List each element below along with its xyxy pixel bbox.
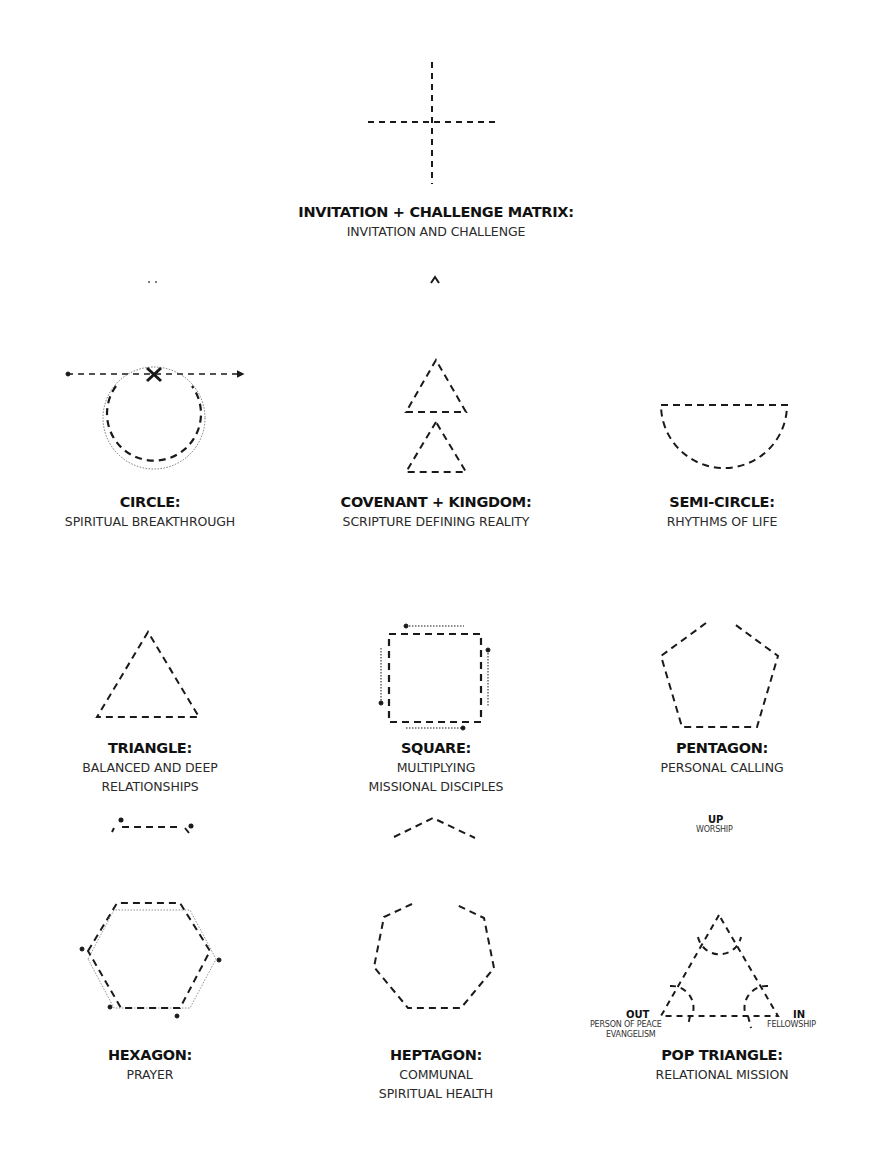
dashed-cross-icon	[368, 62, 496, 184]
dashed-square-icon	[379, 624, 490, 730]
stacked-triangles-icon	[406, 360, 466, 472]
shape-subtitle: BALANCED AND DEEP	[82, 758, 217, 777]
shape-subtitle: RHYTHMS OF LIFE	[667, 512, 778, 531]
shape-title: HEPTAGON:	[379, 1045, 493, 1065]
shape-subtitle: RELATIONSHIPS	[82, 777, 217, 796]
shape-subtitle: MISSIONAL DISCIPLES	[369, 777, 504, 796]
stray-mark-icon	[112, 818, 475, 838]
label-heptagon: HEPTAGON: COMMUNAL SPIRITUAL HEALTH	[379, 1045, 493, 1103]
shape-title: PENTAGON:	[660, 738, 783, 758]
label-pop-triangle: POP TRIANGLE: RELATIONAL MISSION	[656, 1045, 789, 1084]
shape-title: INVITATION + CHALLENGE MATRIX:	[298, 202, 573, 222]
dashed-triangle-icon	[97, 632, 199, 717]
stray-mark-icon	[148, 277, 439, 283]
shape-title: POP TRIANGLE:	[656, 1045, 789, 1065]
shape-subtitle: RELATIONAL MISSION	[656, 1065, 789, 1084]
pop-triangle-icon	[661, 915, 778, 1028]
pop-up-title: UP	[708, 814, 723, 825]
label-semicircle: SEMI-CIRCLE: RHYTHMS OF LIFE	[667, 492, 778, 531]
shape-subtitle: SCRIPTURE DEFINING REALITY	[341, 512, 532, 531]
dashed-circle-icon	[66, 367, 243, 469]
label-hexagon: HEXAGON: PRAYER	[108, 1045, 192, 1084]
shape-subtitle: SPIRITUAL BREAKTHROUGH	[65, 512, 235, 531]
label-covenant: COVENANT + KINGDOM: SCRIPTURE DEFINING R…	[341, 492, 532, 531]
pop-out-sub-2: EVANGELISM	[606, 1030, 656, 1039]
label-triangle: TRIANGLE: BALANCED AND DEEP RELATIONSHIP…	[82, 738, 217, 796]
shape-subtitle: COMMUNAL	[379, 1065, 493, 1084]
shape-subtitle: MULTIPLYING	[369, 758, 504, 777]
dashed-heptagon-icon	[374, 904, 494, 1008]
dashed-semicircle-icon	[661, 405, 787, 468]
pop-up-sub: WORSHIP	[696, 825, 733, 834]
pop-out-title: OUT	[626, 1009, 649, 1020]
shape-title: TRIANGLE:	[82, 738, 217, 758]
label-square: SQUARE: MULTIPLYING MISSIONAL DISCIPLES	[369, 738, 504, 796]
shape-subtitle: PERSONAL CALLING	[660, 758, 783, 777]
dashed-pentagon-icon	[661, 623, 778, 727]
label-matrix: INVITATION + CHALLENGE MATRIX: INVITATIO…	[298, 202, 573, 241]
shape-title: HEXAGON:	[108, 1045, 192, 1065]
pop-in-sub: FELLOWSHIP	[767, 1020, 816, 1029]
shape-subtitle: PRAYER	[108, 1065, 192, 1084]
pop-out-sub-1: PERSON OF PEACE	[590, 1020, 662, 1029]
shape-subtitle: SPIRITUAL HEALTH	[379, 1084, 493, 1103]
label-circle: CIRCLE: SPIRITUAL BREAKTHROUGH	[65, 492, 235, 531]
diagram-canvas	[0, 0, 879, 1157]
pop-in-title: IN	[793, 1009, 805, 1020]
label-pentagon: PENTAGON: PERSONAL CALLING	[660, 738, 783, 777]
shape-subtitle: INVITATION AND CHALLENGE	[298, 222, 573, 241]
shape-title: COVENANT + KINGDOM:	[341, 492, 532, 512]
shape-title: SQUARE:	[369, 738, 504, 758]
shape-title: SEMI-CIRCLE:	[667, 492, 778, 512]
dashed-hexagon-icon	[80, 903, 221, 1018]
shape-title: CIRCLE:	[65, 492, 235, 512]
